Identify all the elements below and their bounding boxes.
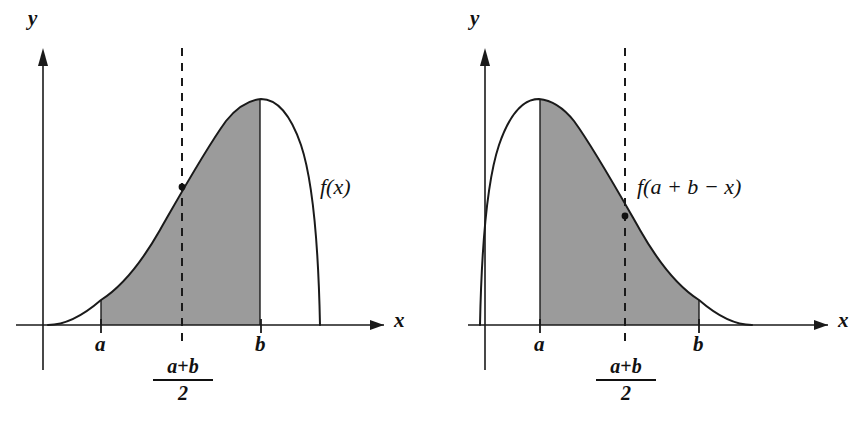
midpoint-fraction-left: a+b 2 xyxy=(153,356,213,404)
y-axis-arrowhead-left xyxy=(38,48,48,66)
midpoint-fraction-bar-right xyxy=(596,379,656,381)
midpoint-num-op-right: + xyxy=(620,355,631,377)
midpoint-marker-dot-left xyxy=(179,184,186,191)
midpoint-num-a-right: a xyxy=(610,355,620,377)
midpoint-fraction-denominator-left: 2 xyxy=(153,382,213,404)
y-axis-label-right: y xyxy=(470,8,479,29)
midpoint-fraction-bar-left xyxy=(153,379,213,381)
midpoint-num-b-left: b xyxy=(189,355,199,377)
shaded-region-left xyxy=(101,99,260,325)
tick-label-b-right: b xyxy=(693,334,704,355)
midpoint-fraction-numerator-left: a+b xyxy=(153,356,213,378)
midpoint-fraction-denominator-right: 2 xyxy=(596,382,656,404)
x-axis-arrowhead-right xyxy=(814,320,828,330)
figure-root: y x a b f(x) a+b 2 xyxy=(0,0,856,423)
curve-label-fx-left: f(x) xyxy=(320,176,351,198)
tick-label-a-right: a xyxy=(534,334,545,355)
panel-left: y x a b f(x) a+b 2 xyxy=(0,0,428,423)
x-axis-label-right: x xyxy=(838,310,849,331)
tick-label-b-left: b xyxy=(255,334,266,355)
curve-label-fabx-right: f(a + b − x) xyxy=(637,176,741,198)
shaded-region-right xyxy=(540,99,699,325)
midpoint-fraction-numerator-right: a+b xyxy=(596,356,656,378)
x-axis-label-left: x xyxy=(394,310,405,331)
panel-left-graphic xyxy=(0,0,428,423)
tick-label-a-left: a xyxy=(95,334,106,355)
x-axis-arrowhead-left xyxy=(370,320,384,330)
panel-right: y x a b f(a + b − x) a+b 2 xyxy=(428,0,856,423)
midpoint-marker-dot-right xyxy=(622,213,629,220)
midpoint-num-op-left: + xyxy=(177,355,188,377)
y-axis-label-left: y xyxy=(28,8,37,29)
y-axis-arrowhead-right xyxy=(480,48,490,66)
midpoint-num-a-left: a xyxy=(167,355,177,377)
midpoint-num-b-right: b xyxy=(632,355,642,377)
midpoint-fraction-right: a+b 2 xyxy=(596,356,656,404)
